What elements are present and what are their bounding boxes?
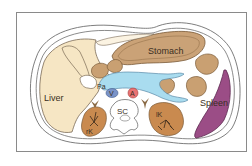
abdomen-cross-section: Stomach Pa V A SC rK lK Spleen Liver <box>0 0 252 166</box>
stomach-label: Stomach <box>148 46 184 56</box>
spleen-label: Spleen <box>200 98 228 108</box>
liver-label: Liver <box>44 93 64 103</box>
bowel-loop-4 <box>186 77 206 97</box>
spinal-canal-label: SC <box>117 107 128 116</box>
pancreas-label: Pa <box>97 83 106 90</box>
vein-label: V <box>109 90 114 97</box>
aorta-label: A <box>130 90 135 97</box>
left-kidney-label: lK <box>156 111 163 118</box>
right-kidney-label: rK <box>86 128 93 135</box>
